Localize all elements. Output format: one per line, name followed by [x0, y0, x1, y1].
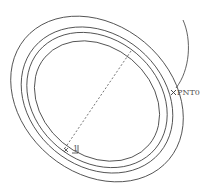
- diameter-dashed-line: [63, 51, 131, 151]
- ellipse-3: [0, 4, 194, 195]
- entry-curve: [176, 20, 188, 88]
- point1-label: 1: [73, 144, 78, 153]
- cad-drawing: PNT0 1: [0, 0, 204, 196]
- pnt0-label: PNT0: [177, 88, 200, 97]
- pnt0-x-marker-icon: [171, 90, 176, 95]
